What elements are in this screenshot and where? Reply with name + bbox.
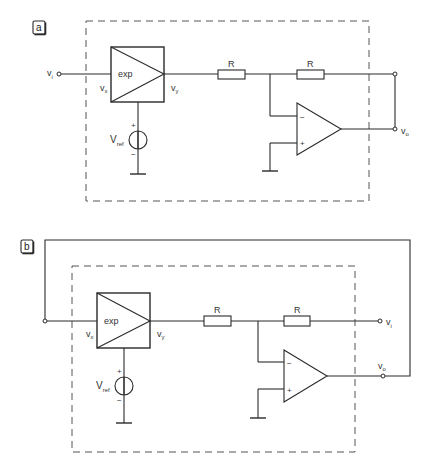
svg-text:+: + <box>117 367 122 376</box>
input-label: vi <box>47 68 53 80</box>
resistor-1 <box>204 316 231 326</box>
output-terminal <box>381 374 385 378</box>
svg-text:exp: exp <box>118 69 133 79</box>
diagram-tag-a: a <box>33 21 46 35</box>
output-label: vo <box>401 126 410 137</box>
vx-label: vx <box>86 329 94 340</box>
svg-text:−: − <box>300 113 305 122</box>
svg-text:−: − <box>131 150 136 159</box>
circuit-figure: a vi exp vx vy + − Vref R R <box>0 0 427 461</box>
input-terminal <box>378 319 382 323</box>
subcircuit-boundary <box>86 21 369 201</box>
svg-text:R: R <box>228 59 235 69</box>
svg-text:+: + <box>131 121 136 130</box>
svg-text:R: R <box>307 59 314 69</box>
loop-node <box>43 319 47 323</box>
subcircuit-boundary <box>72 266 355 452</box>
diagram-a: a vi exp vx vy + − Vref R R <box>33 21 410 201</box>
svg-text:+: + <box>287 386 292 395</box>
feedback-terminal <box>393 72 397 76</box>
svg-text:b: b <box>24 241 30 252</box>
vx-label: vx <box>100 83 108 94</box>
diagram-b: b exp vx vy + − Vref R R <box>21 240 410 452</box>
voltage-source-icon <box>115 377 133 395</box>
resistor-2 <box>297 70 324 79</box>
svg-text:a: a <box>36 22 42 33</box>
vy-label: vy <box>157 329 165 340</box>
vy-label: vy <box>171 83 179 94</box>
exp-block: exp <box>111 47 164 102</box>
output-label: vo <box>378 361 387 372</box>
resistor-1 <box>218 70 245 79</box>
voltage-source-icon <box>129 131 147 149</box>
vref-label: Vref <box>96 380 110 393</box>
exp-block: exp <box>97 293 150 348</box>
svg-text:−: − <box>117 396 122 405</box>
svg-text:R: R <box>214 305 221 315</box>
output-terminal <box>393 127 397 131</box>
vref-label: Vref <box>110 134 124 147</box>
input-label: vi <box>386 317 392 329</box>
resistor-2 <box>284 316 310 326</box>
input-terminal <box>57 72 61 76</box>
diagram-tag-b: b <box>21 240 34 254</box>
svg-text:R: R <box>294 305 301 315</box>
svg-text:+: + <box>300 139 305 148</box>
svg-text:−: − <box>287 359 292 368</box>
svg-text:exp: exp <box>104 316 119 326</box>
